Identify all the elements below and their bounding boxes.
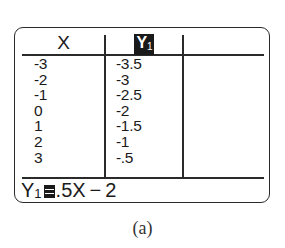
table-cell-y1[interactable]: -.5 <box>116 150 142 166</box>
table-cell-x[interactable]: 3 <box>34 150 47 166</box>
table-cell-x[interactable]: 0 <box>34 103 47 119</box>
column-header-x-label: X <box>57 32 70 53</box>
column-header-y1[interactable]: Y1 <box>106 32 182 54</box>
function-entry-line[interactable]: Y1.5X − 2 <box>21 178 116 202</box>
table-cell-x[interactable]: 2 <box>34 134 47 150</box>
figure-caption: (a) <box>0 218 285 239</box>
function-expression: .5X − 2 <box>56 179 117 201</box>
y1-values-list: -3.5 -3 -2.5 -2 -1.5 -1 -.5 <box>116 56 142 165</box>
column-divider-2 <box>182 35 184 178</box>
table-cell-x[interactable]: -1 <box>34 87 47 103</box>
column-header-x[interactable]: X <box>23 32 104 54</box>
table-cell-y1[interactable]: -1.5 <box>116 118 142 134</box>
calculator-table-screen: X Y1 -3 -2 -1 0 1 2 3 -3.5 -3 -2.5 -2 -1… <box>14 27 270 203</box>
table-cell-y1[interactable]: -1 <box>116 134 142 150</box>
x-values-list: -3 -2 -1 0 1 2 3 <box>34 56 47 165</box>
table-cell-y1[interactable]: -3 <box>116 72 142 88</box>
table-cell-x[interactable]: -3 <box>34 56 47 72</box>
table-cell-y1[interactable]: -2 <box>116 103 142 119</box>
table-cell-x[interactable]: -2 <box>34 72 47 88</box>
column-divider-1 <box>104 35 106 178</box>
table-cell-y1[interactable]: -2.5 <box>116 87 142 103</box>
equals-highlighted-icon <box>44 185 55 198</box>
table-cell-x[interactable]: 1 <box>34 118 47 134</box>
y1-highlighted-badge: Y1 <box>134 34 153 55</box>
table-cell-y1[interactable]: -3.5 <box>116 56 142 72</box>
function-variable: Y1 <box>21 179 42 201</box>
